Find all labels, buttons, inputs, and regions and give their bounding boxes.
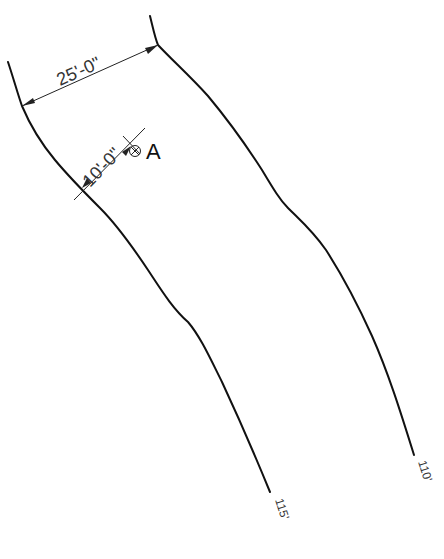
dimension-road-width: 25'-0": [22, 45, 158, 106]
dimension-label-offset-to-a: 10'-0": [78, 144, 124, 191]
right-road-edge: [150, 16, 414, 455]
dimension-offset-to-a: 10'-0": [74, 128, 145, 200]
point-a-label: A: [146, 139, 161, 164]
dimension-label-road-width: 25'-0": [53, 53, 103, 90]
station-label-left: 115': [272, 497, 292, 522]
point-a-marker: A: [130, 139, 162, 164]
station-label-right: 110': [415, 459, 435, 484]
arrowhead-icon: [22, 98, 35, 106]
road-drawing: 25'-0" 10'-0" A 110' 115': [0, 0, 444, 559]
left-road-edge: [8, 62, 270, 492]
arrowhead-icon: [145, 45, 158, 54]
